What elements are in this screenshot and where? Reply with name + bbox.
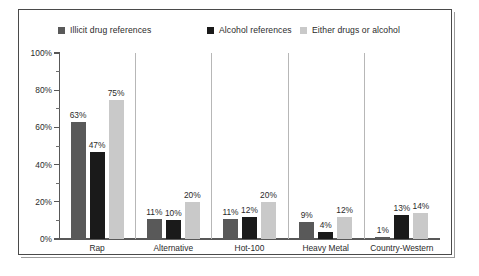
group-separator <box>211 53 212 239</box>
bar-group-alternative: 11%10%20% <box>135 53 211 239</box>
bar-heavy-metal-series-2 <box>337 217 352 239</box>
x-axis-label-country-western: Country-Western <box>364 243 440 253</box>
bar-alternative-series-2 <box>185 202 200 239</box>
y-axis-label-20%: 20% <box>21 197 52 207</box>
bar-value-label: 75% <box>99 88 133 98</box>
group-separator <box>288 53 289 239</box>
y-axis-label-80%: 80% <box>21 85 52 95</box>
bar-value-label: 20% <box>251 190 285 200</box>
y-axis-tick-40% <box>54 164 60 165</box>
y-axis-tick-100% <box>54 52 60 53</box>
x-axis-label-rap: Rap <box>59 243 135 253</box>
y-axis-tick-20% <box>54 201 60 202</box>
y-axis-minor-tick <box>56 146 60 147</box>
bar-rap-series-2 <box>109 100 124 240</box>
bar-alternative-series-1 <box>166 220 181 239</box>
group-separator <box>364 53 365 239</box>
bar-rap-series-1 <box>90 152 105 239</box>
y-axis-minor-tick <box>56 220 60 221</box>
bar-value-label: 14% <box>404 201 438 211</box>
y-axis-tick-0% <box>54 238 60 239</box>
y-axis-label-60%: 60% <box>21 122 52 132</box>
x-axis-label-hot-100: Hot-100 <box>211 243 287 253</box>
group-separator <box>135 53 136 239</box>
x-axis-label-alternative: Alternative <box>135 243 211 253</box>
bar-group-hot-100: 11%12%20% <box>211 53 287 239</box>
y-axis-label-0%: 0% <box>21 234 52 244</box>
x-axis-label-heavy-metal: Heavy Metal <box>288 243 364 253</box>
y-axis-tick-labels: 0%20%40%60%80%100% <box>19 10 52 256</box>
figure-frame: Illicit drug references Alcohol referenc… <box>18 9 452 255</box>
bar-hot-100-series-1 <box>242 217 257 239</box>
y-axis-minor-tick <box>56 71 60 72</box>
bar-group-heavy-metal: 9%4%12% <box>288 53 364 239</box>
bar-value-label: 20% <box>175 190 209 200</box>
bar-hot-100-series-0 <box>223 219 238 239</box>
y-axis-tick-60% <box>54 127 60 128</box>
y-axis-label-100%: 100% <box>21 48 52 58</box>
bar-group-country-western: 1%13%14% <box>364 53 440 239</box>
bars-container: 63%47%75%11%10%20%11%12%20%9%4%12%1%13%1… <box>59 53 440 239</box>
bar-group-rap: 63%47%75% <box>59 53 135 239</box>
bar-country-western-series-0 <box>375 237 390 239</box>
y-axis-tick-80% <box>54 90 60 91</box>
bar-value-label: 12% <box>328 205 362 215</box>
y-axis-label-40%: 40% <box>21 160 52 170</box>
bar-heavy-metal-series-1 <box>318 232 333 239</box>
y-axis-minor-tick <box>56 108 60 109</box>
bar-hot-100-series-2 <box>261 202 276 239</box>
bar-alternative-series-0 <box>147 219 162 239</box>
bar-country-western-series-2 <box>413 213 428 239</box>
bar-country-western-series-1 <box>394 215 409 239</box>
y-axis-minor-tick <box>56 183 60 184</box>
bar-value-label: 63% <box>61 110 95 120</box>
chart-plot: 0%20%40%60%80%100% 63%47%75%11%10%20%11%… <box>19 10 453 256</box>
